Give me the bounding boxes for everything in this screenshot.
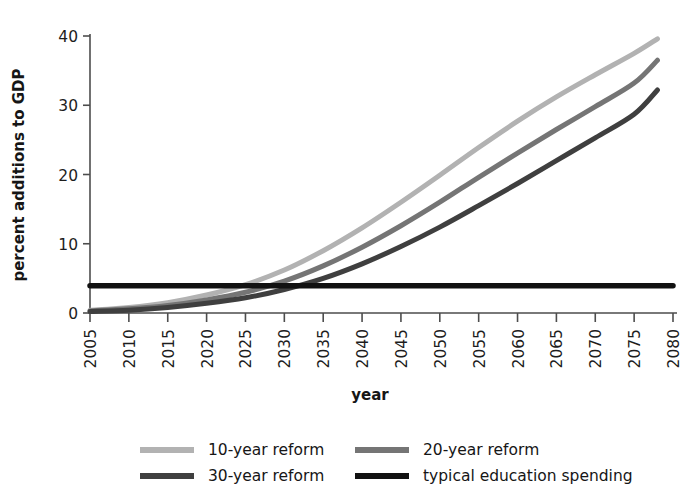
x-tick-label: 2010: [121, 329, 139, 368]
x-tick-label: 2075: [626, 329, 644, 368]
x-tick-label: 2035: [315, 329, 333, 368]
series-line-2: [90, 60, 657, 311]
y-tick-label: 40: [58, 28, 78, 46]
x-tick-label: 2070: [587, 329, 605, 368]
y-tick-label: 10: [58, 236, 78, 254]
x-axis-title: year: [351, 386, 389, 404]
x-tick-label: 2050: [432, 329, 450, 368]
y-tick-label: 0: [68, 305, 78, 323]
y-axis-title: percent additions to GDP: [10, 68, 28, 281]
legend-label-3: 30-year reform: [208, 467, 324, 485]
y-tick-label: 20: [58, 167, 78, 185]
legend-label-2: 20-year reform: [423, 441, 539, 459]
x-tick-label: 2005: [82, 329, 100, 368]
line-chart: 0102030402005201020152020202520302035204…: [0, 0, 687, 492]
x-tick-label: 2020: [199, 329, 217, 368]
x-tick-label: 2060: [510, 329, 528, 368]
x-tick-label: 2080: [665, 329, 683, 368]
x-tick-label: 2040: [354, 329, 372, 368]
series-line-3: [90, 90, 657, 312]
x-tick-label: 2030: [276, 329, 294, 368]
x-tick-label: 2065: [548, 329, 566, 368]
series-line-1: [90, 39, 657, 310]
legend-label-1: 10-year reform: [208, 441, 324, 459]
x-tick-label: 2045: [393, 329, 411, 368]
chart-figure: 0102030402005201020152020202520302035204…: [0, 0, 687, 492]
x-tick-label: 2015: [160, 329, 178, 368]
x-tick-label: 2055: [471, 329, 489, 368]
x-tick-label: 2025: [237, 329, 255, 368]
y-tick-label: 30: [58, 97, 78, 115]
legend-label-4: typical education spending: [423, 467, 633, 485]
